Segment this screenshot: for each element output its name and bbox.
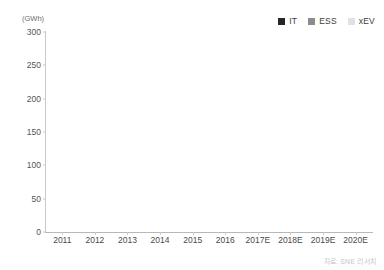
bar-group[interactable]: 2013 xyxy=(111,32,144,232)
y-axis-tick-label: 50 xyxy=(32,194,41,203)
bar-group[interactable]: 2017E xyxy=(242,32,275,232)
legend-label-xev: xEV xyxy=(359,17,375,26)
y-axis-tick-label: 100 xyxy=(27,161,41,170)
bar-group[interactable]: 2020E xyxy=(339,32,372,232)
legend-swatch-xev xyxy=(348,18,355,25)
x-axis-tick-label: 2016 xyxy=(216,235,235,245)
legend-swatch-ess xyxy=(308,18,315,25)
y-axis-tick-label: 300 xyxy=(27,28,41,37)
x-axis-tick-label: 2020E xyxy=(343,235,368,245)
y-axis-tick-label: 0 xyxy=(36,228,41,237)
y-axis-tick-label: 150 xyxy=(27,128,41,137)
bar-group[interactable]: 2019E xyxy=(307,32,340,232)
x-axis-tick-label: 2017E xyxy=(246,235,271,245)
bar-series-container: 2011201220132014201520162017E2018E2019E2… xyxy=(46,32,372,232)
x-axis-tick-label: 2018E xyxy=(278,235,303,245)
bar-group[interactable]: 2011 xyxy=(46,32,79,232)
y-axis-tick-label: 250 xyxy=(27,61,41,70)
bar-group[interactable]: 2018E xyxy=(274,32,307,232)
x-axis-tick-label: 2012 xyxy=(85,235,104,245)
bar-group[interactable]: 2015 xyxy=(176,32,209,232)
bar-group[interactable]: 2014 xyxy=(144,32,177,232)
x-axis-tick-label: 2011 xyxy=(53,235,71,245)
y-axis-unit-label: (GWh) xyxy=(22,14,44,23)
stacked-bar-chart: IT ESS xEV (GWh) 050100150200250300 2011… xyxy=(0,0,384,270)
x-axis-tick-label: 2019E xyxy=(311,235,336,245)
plot-area: 050100150200250300 201120122013201420152… xyxy=(46,32,372,232)
source-note: 자료: SNE 리서치 xyxy=(324,257,376,266)
bar-group[interactable]: 2016 xyxy=(209,32,242,232)
legend-item-xev[interactable]: xEV xyxy=(348,17,375,26)
x-axis-tick-label: 2015 xyxy=(183,235,202,245)
legend-swatch-it xyxy=(278,18,285,25)
x-axis-tick-label: 2014 xyxy=(151,235,170,245)
bar-group[interactable]: 2012 xyxy=(79,32,112,232)
legend-item-ess[interactable]: ESS xyxy=(308,17,337,26)
legend-label-it: IT xyxy=(289,17,297,26)
legend-item-it[interactable]: IT xyxy=(278,17,297,26)
legend-label-ess: ESS xyxy=(319,17,337,26)
y-axis-tick-label: 200 xyxy=(27,94,41,103)
x-axis-tick-label: 2013 xyxy=(118,235,137,245)
chart-legend: IT ESS xEV xyxy=(278,15,375,27)
